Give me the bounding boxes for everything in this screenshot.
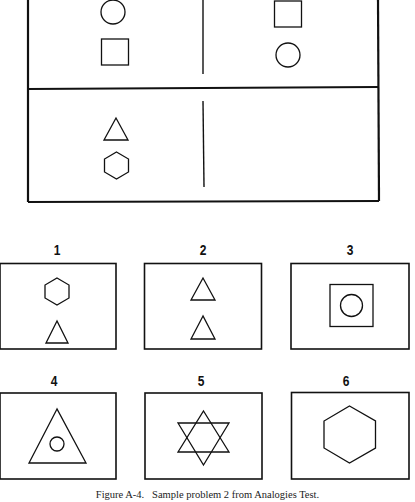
row1-right-cell — [275, 1, 302, 67]
problem-row-divider — [28, 87, 378, 89]
option-4-label: 4 — [50, 373, 58, 388]
option-2-box[interactable] — [145, 264, 262, 350]
option-6[interactable] — [292, 393, 410, 480]
square-icon — [102, 39, 129, 65]
problem-right-border — [378, 0, 379, 201]
triangle-icon — [191, 278, 215, 300]
option-1[interactable] — [0, 264, 116, 350]
row2-left-cell — [104, 118, 129, 179]
option-3-label: 3 — [346, 242, 354, 257]
option-5-label: 5 — [197, 373, 205, 388]
option-3[interactable] — [291, 264, 409, 350]
hexagon-icon — [324, 406, 376, 463]
option-1-box[interactable] — [0, 264, 116, 350]
hexagon-icon — [45, 278, 69, 305]
triangle-icon — [29, 409, 86, 463]
circle-icon — [101, 0, 125, 24]
option-1-label: 1 — [53, 242, 61, 257]
star-down-triangle-icon — [178, 423, 229, 465]
option-2[interactable] — [145, 264, 262, 350]
square-icon — [330, 285, 373, 327]
triangle-icon — [191, 316, 215, 339]
option-5[interactable] — [145, 393, 262, 479]
option-6-label: 6 — [342, 373, 350, 388]
circle-icon — [50, 437, 64, 451]
option-2-label: 2 — [199, 242, 207, 257]
square-icon — [275, 1, 302, 27]
triangle-icon — [104, 118, 128, 140]
circle-icon — [341, 295, 363, 317]
figure-caption: Figure A-4. Sample problem 2 from Analog… — [0, 489, 415, 500]
option-4[interactable] — [0, 393, 116, 479]
option-6-box[interactable] — [292, 393, 410, 480]
circle-icon — [276, 43, 300, 67]
problem-bottom-border — [28, 201, 379, 202]
row1-left-cell — [101, 0, 129, 65]
problem-panel — [28, 0, 379, 202]
row2-divider — [203, 101, 204, 187]
star-up-triangle-icon — [178, 411, 229, 452]
hexagon-icon — [105, 152, 129, 179]
triangle-icon — [46, 321, 68, 343]
option-4-box[interactable] — [0, 393, 116, 479]
option-3-box[interactable] — [291, 264, 409, 350]
